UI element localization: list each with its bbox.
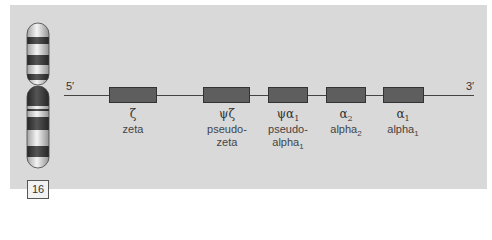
five-prime-label: 5′ xyxy=(66,80,74,92)
gene-box-zeta xyxy=(109,87,157,103)
gene-box-pseudo-alpha1 xyxy=(268,87,308,103)
name-text: alpha xyxy=(272,136,299,148)
symbol-text: α xyxy=(339,107,347,121)
symbol-text: ψα xyxy=(277,107,295,121)
gene-box-alpha2 xyxy=(326,87,366,103)
gene-symbol-pseudo-zeta: ψζ xyxy=(192,107,262,121)
chromosome-16-icon xyxy=(26,22,50,169)
gene-box-alpha1 xyxy=(383,87,424,103)
chromosome-number-label: 16 xyxy=(27,180,49,199)
gene-name-alpha1: alpha1 xyxy=(368,123,438,140)
gene-symbol-zeta: ζ xyxy=(98,107,168,121)
gene-name-zeta: zeta xyxy=(98,123,168,136)
gene-box-pseudo-zeta xyxy=(203,87,250,103)
name-subscript: 1 xyxy=(414,129,418,138)
gene-name-pseudo-zeta-line2: zeta xyxy=(192,136,262,149)
three-prime-label: 3′ xyxy=(466,80,474,92)
gene-name-pseudo-zeta-line1: pseudo- xyxy=(192,123,262,136)
gene-symbol-alpha1: α1 xyxy=(368,107,438,123)
name-text: alpha xyxy=(387,123,414,135)
name-text: alpha xyxy=(330,123,357,135)
name-subscript: 1 xyxy=(299,142,303,151)
name-subscript: 2 xyxy=(357,129,361,138)
symbol-text: α xyxy=(396,107,404,121)
